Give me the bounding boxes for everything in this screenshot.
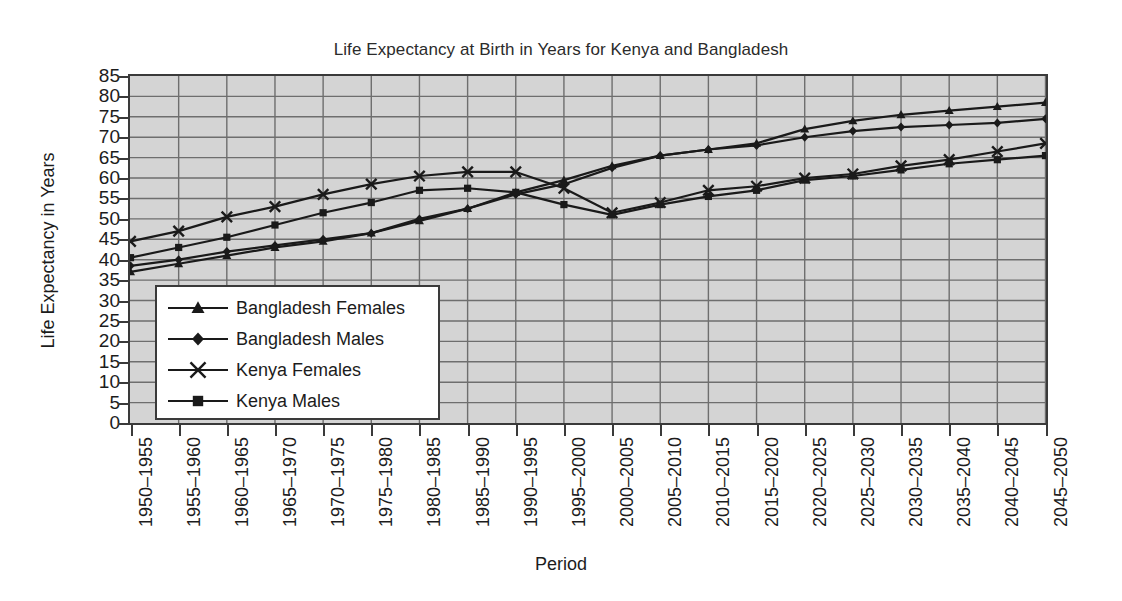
y-tick-label: 45 (74, 229, 120, 248)
legend-item[interactable]: Kenya Females (157, 354, 438, 385)
legend-label: Kenya Females (230, 361, 361, 379)
x-axis-tick-labels: 1950–19551955–19601960–19651965–19701970… (128, 437, 1048, 547)
x-tick-label: 2035–2040 (955, 437, 973, 547)
y-tick-label: 85 (74, 66, 120, 85)
x-tick-mark (757, 425, 759, 436)
y-tick-label: 35 (74, 270, 120, 289)
x-tick-label: 1965–1970 (281, 437, 299, 547)
x-tick-mark (805, 425, 807, 436)
legend-marker-cross-icon (166, 359, 230, 381)
x-tick-label: 1980–1985 (425, 437, 443, 547)
legend-item[interactable]: Kenya Males (157, 385, 438, 416)
legend-marker-diamond-icon (166, 328, 230, 350)
x-tick-label: 1950–1955 (137, 437, 155, 547)
x-tick-mark (853, 425, 855, 436)
x-tick-mark (901, 425, 903, 436)
y-tick-label: 30 (74, 291, 120, 310)
x-tick-label: 2015–2020 (763, 437, 781, 547)
data-point-square (368, 199, 375, 206)
x-tick-label: 2005–2010 (666, 437, 684, 547)
data-point-square (175, 244, 182, 251)
x-tick-mark (564, 425, 566, 436)
legend-item[interactable]: Bangladesh Females (157, 292, 438, 323)
y-tick-label: 70 (74, 127, 120, 146)
data-point-diamond (993, 118, 1001, 127)
y-tick-label: 5 (74, 393, 120, 412)
x-tick-mark (227, 425, 229, 436)
data-point-diamond (849, 127, 857, 136)
x-tick-label: 2030–2035 (907, 437, 925, 547)
y-tick-label: 50 (74, 209, 120, 228)
data-point-square (1042, 152, 1046, 159)
x-tick-mark (612, 425, 614, 436)
data-point-square (130, 254, 134, 261)
data-point-square (994, 156, 1001, 163)
data-point-square (801, 177, 808, 184)
data-point-diamond (130, 261, 135, 270)
y-tick-label: 55 (74, 188, 120, 207)
data-point-diamond (897, 123, 905, 132)
series-line-1 (131, 119, 1046, 266)
y-tick-label: 10 (74, 372, 120, 391)
x-tick-label: 2040–2045 (1003, 437, 1021, 547)
x-tick-label: 1985–1990 (474, 437, 492, 547)
x-tick-mark (1046, 425, 1048, 436)
legend-label: Kenya Males (230, 392, 340, 410)
x-tick-label: 2025–2030 (859, 437, 877, 547)
x-tick-mark (275, 425, 277, 436)
x-tick-label: 2020–2025 (811, 437, 829, 547)
data-point-square (416, 187, 423, 194)
x-tick-mark (708, 425, 710, 436)
y-tick-label: 40 (74, 250, 120, 269)
x-tick-mark (949, 425, 951, 436)
legend-item[interactable]: Bangladesh Males (157, 323, 438, 354)
data-point-diamond (192, 332, 204, 345)
y-tick-label: 15 (74, 352, 120, 371)
series-line-3 (131, 156, 1046, 258)
x-tick-label: 2045–2050 (1052, 437, 1070, 547)
x-tick-label: 1990–1995 (522, 437, 540, 547)
x-tick-mark (323, 425, 325, 436)
x-tick-label: 1955–1960 (185, 437, 203, 547)
x-axis-title: Period (0, 554, 1122, 575)
data-point-square (560, 201, 567, 208)
x-tick-mark (131, 425, 133, 436)
data-point-square (320, 209, 327, 216)
y-tick-label: 65 (74, 148, 120, 167)
x-tick-mark (419, 425, 421, 436)
y-tick-label: 80 (74, 86, 120, 105)
x-tick-label: 2010–2015 (714, 437, 732, 547)
x-tick-label: 1970–1975 (329, 437, 347, 547)
y-tick-label: 60 (74, 168, 120, 187)
x-tick-mark (371, 425, 373, 436)
chart-legend: Bangladesh FemalesBangladesh MalesKenya … (155, 285, 440, 420)
data-point-diamond (1041, 114, 1046, 123)
data-point-square (897, 166, 904, 173)
chart-figure: Life Expectancy at Birth in Years for Ke… (0, 0, 1122, 601)
data-point-square (608, 211, 615, 218)
data-point-square (753, 187, 760, 194)
y-tick-label: 25 (74, 311, 120, 330)
legend-label: Bangladesh Females (230, 299, 405, 317)
x-tick-mark (516, 425, 518, 436)
x-tick-mark (179, 425, 181, 436)
y-axis-tick-labels: 0510152025303540455055606570758085 (74, 74, 120, 425)
y-tick-label: 20 (74, 331, 120, 350)
x-tick-label: 1995–2000 (570, 437, 588, 547)
data-point-square (946, 160, 953, 167)
data-point-diamond (945, 120, 953, 129)
data-point-square (512, 189, 519, 196)
data-point-square (271, 221, 278, 228)
data-point-square (657, 201, 664, 208)
legend-marker-triangle-icon (166, 297, 230, 319)
data-point-square (705, 193, 712, 200)
legend-marker-square-icon (166, 390, 230, 412)
y-axis-title: Life Expectancy in Years (38, 121, 59, 381)
x-tick-mark (997, 425, 999, 436)
x-tick-label: 1960–1965 (233, 437, 251, 547)
x-tick-mark (468, 425, 470, 436)
data-point-square (223, 234, 230, 241)
data-point-square (464, 185, 471, 192)
x-tick-label: 1975–1980 (377, 437, 395, 547)
x-tick-label: 2000–2005 (618, 437, 636, 547)
